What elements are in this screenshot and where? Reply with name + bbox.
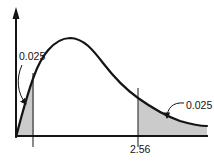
right-critical-value-label: 2.56: [130, 143, 151, 155]
left-tail-annotation-arrow: [18, 65, 26, 104]
distribution-figure: 0.025 0.025 2.56: [0, 0, 214, 163]
left-tail-area-label: 0.025: [19, 50, 45, 62]
distribution-chart-svg: 0.025 0.025 2.56: [0, 0, 214, 163]
y-axis-arrowhead-icon: [13, 7, 20, 19]
right-tail-area-label: 0.025: [186, 99, 212, 111]
